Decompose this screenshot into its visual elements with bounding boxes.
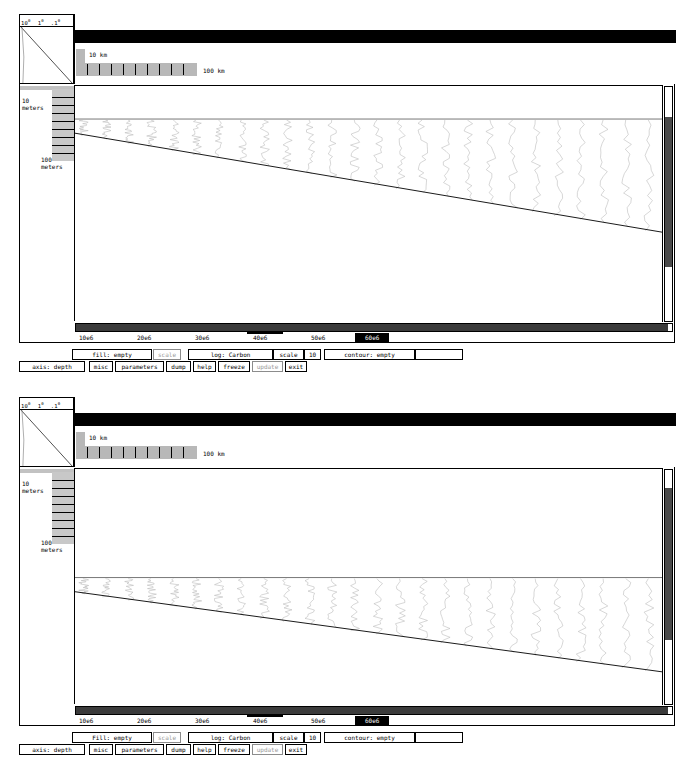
scale-bar-100km-label-bottom: 100 km (203, 449, 225, 458)
parameters-button-bottom[interactable]: parameters (115, 744, 164, 755)
horizontal-scrollbar-bottom[interactable] (75, 706, 673, 715)
depth-label-deep-unit: meters (41, 163, 63, 170)
scale-button-bottom[interactable]: scale (153, 732, 181, 743)
axis-button-top[interactable]: axis: depth (19, 361, 85, 372)
update-button-bottom[interactable]: update (252, 744, 283, 755)
x-axis-top: 10e6 20e6 30e6 40e6 50e6 60e6 (74, 333, 675, 344)
contour-value-field-bottom[interactable] (415, 732, 463, 743)
legend-tick-b-exp: 0 (41, 401, 44, 406)
dump-button-bottom[interactable]: dump (166, 744, 191, 755)
dump-button-top[interactable]: dump (166, 361, 191, 372)
scale-bar-10km-label-bottom: 10 km (89, 433, 107, 442)
legend-exponent-labels-bottom: 100 10 .10 (20, 398, 73, 410)
exit-button-bottom[interactable]: exit (285, 744, 307, 755)
fill-button-top[interactable]: fill: empty (72, 349, 152, 360)
contour-value-field-top[interactable] (415, 349, 463, 360)
freeze-button-bottom[interactable]: freeze (218, 744, 250, 755)
main-plot-area-top[interactable] (74, 85, 662, 321)
stratigraphy-canvas-top (75, 86, 662, 321)
legend-box-top[interactable]: 100 10 .10 (19, 14, 74, 84)
depth-label-deep-unit: meters (41, 546, 63, 553)
help-button-bottom[interactable]: help (193, 744, 216, 755)
misc-button-bottom[interactable]: misc (89, 744, 113, 755)
viewer-panel-bottom: 100 10 .10 10 km 100 km 10 meters 100 me… (0, 383, 694, 766)
header-strip-bottom: 10 km 100 km (74, 397, 675, 467)
contour-button-bottom[interactable]: contour: empty (324, 732, 415, 743)
x-tick-2[interactable]: 30e6 (193, 333, 211, 343)
legend-tick-a: 10 (21, 403, 28, 409)
horizontal-scrollbar-top[interactable] (75, 323, 673, 332)
x-tick-selected[interactable]: 60e6 (355, 333, 389, 343)
plot-right-border-bottom (662, 468, 663, 705)
legend-tick-c: .1 (51, 403, 58, 409)
legend-tick-a: 10 (21, 20, 28, 26)
depth-axis-bottom[interactable] (52, 472, 74, 544)
legend-tick-a-exp: 0 (28, 401, 31, 406)
misc-button-top[interactable]: misc (89, 361, 113, 372)
depth-label-deep-value: 100 (41, 156, 63, 163)
x-tick-selected[interactable]: 60e6 (355, 716, 389, 726)
depth-label-shallow-top: 10 meters (22, 97, 44, 111)
x-tick-1[interactable]: 20e6 (135, 716, 153, 726)
title-bar-top (75, 30, 676, 43)
scale-bar-100km-top (76, 63, 197, 76)
parameters-button-top[interactable]: parameters (115, 361, 164, 372)
legend-tick-a-exp: 0 (28, 18, 31, 23)
viewer-panel-top: 100 10 .10 10 km 100 km 10 meters 100 me… (0, 0, 694, 383)
x-tick-4[interactable]: 50e6 (309, 333, 327, 343)
depth-label-deep-bottom: 100 meters (41, 539, 63, 553)
horizontal-scroll-thumb-bottom[interactable] (76, 707, 668, 714)
x-tick-1[interactable]: 20e6 (135, 333, 153, 343)
depth-label-shallow-unit: meters (22, 487, 44, 494)
main-plot-area-bottom[interactable] (74, 468, 662, 704)
x-tick-4[interactable]: 50e6 (309, 716, 327, 726)
scale-bar-10km-bottom (76, 432, 85, 446)
update-button-top[interactable]: update (252, 361, 283, 372)
legend-tick-b-exp: 0 (41, 18, 44, 23)
horizontal-scroll-thumb-top[interactable] (76, 324, 668, 331)
scale-value-field-bottom[interactable]: 10 (304, 732, 321, 743)
legend-mini-chart-top (20, 27, 73, 84)
legend-exponent-labels-top: 100 10 .10 (20, 15, 73, 27)
title-bar-bottom (75, 413, 676, 426)
stratigraphy-canvas-bottom (75, 469, 662, 704)
x-axis-bottom: 10e6 20e6 30e6 40e6 50e6 60e6 (74, 716, 675, 727)
scale-button-top[interactable]: scale (153, 349, 181, 360)
depth-label-shallow-unit: meters (22, 104, 44, 111)
depth-axis-top[interactable] (52, 89, 74, 161)
log-button-bottom[interactable]: log: Carbon (188, 732, 273, 743)
legend-mini-chart-bottom (20, 410, 73, 467)
depth-label-deep-top: 100 meters (41, 156, 63, 170)
plot-right-border-top (662, 85, 663, 322)
axis-button-bottom[interactable]: axis: depth (19, 744, 85, 755)
scale-bar-100km-label-top: 100 km (203, 66, 225, 75)
help-button-top[interactable]: help (193, 361, 216, 372)
depth-label-shallow-value: 10 (22, 97, 44, 104)
x-tick-2[interactable]: 30e6 (193, 716, 211, 726)
vertical-scrollbar-bottom[interactable] (664, 469, 673, 705)
legend-box-bottom[interactable]: 100 10 .10 (19, 397, 74, 467)
scale-value-button-top[interactable]: scale (273, 349, 304, 360)
scale-bar-100km-bottom (76, 446, 197, 459)
vertical-scroll-thumb-bottom[interactable] (665, 488, 672, 640)
depth-label-deep-value: 100 (41, 539, 63, 546)
vertical-scroll-thumb-top[interactable] (665, 117, 672, 267)
freeze-button-top[interactable]: freeze (218, 361, 250, 372)
contour-button-top[interactable]: contour: empty (324, 349, 415, 360)
scale-bar-10km-top (76, 49, 85, 63)
exit-button-top[interactable]: exit (285, 361, 307, 372)
legend-tick-c-exp: 0 (58, 18, 61, 23)
legend-tick-c: .1 (51, 20, 58, 26)
scale-value-field-top[interactable]: 10 (304, 349, 321, 360)
x-tick-3[interactable]: 40e6 (251, 716, 269, 726)
scale-bar-10km-label-top: 10 km (89, 50, 107, 59)
vertical-scrollbar-top[interactable] (664, 86, 673, 322)
scale-value-button-bottom[interactable]: scale (273, 732, 304, 743)
x-tick-0[interactable]: 10e6 (77, 716, 95, 726)
header-strip-top: 10 km 100 km (74, 14, 675, 84)
fill-button-bottom[interactable]: Fill: empty (72, 732, 152, 743)
x-tick-3[interactable]: 40e6 (251, 333, 269, 343)
log-button-top[interactable]: log: Carbon (188, 349, 273, 360)
depth-label-shallow-value: 10 (22, 480, 44, 487)
x-tick-0[interactable]: 10e6 (77, 333, 95, 343)
